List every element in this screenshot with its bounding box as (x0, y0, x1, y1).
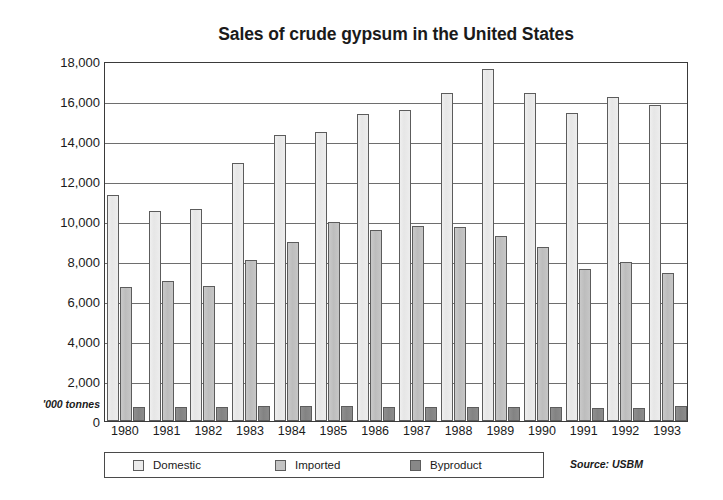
bars-layer (105, 63, 687, 421)
chart-figure: Sales of crude gypsum in the United Stat… (0, 0, 723, 500)
x-axis-tick-label: 1988 (438, 424, 480, 438)
bar-imported-1986 (370, 230, 382, 421)
bar-imported-1980 (120, 287, 132, 421)
y-axis-tick-label: 0 (30, 415, 100, 430)
legend-swatch-icon (410, 460, 421, 471)
y-axis-tick-label: 14,000 (30, 135, 100, 150)
bar-domestic-1990 (524, 93, 536, 421)
bar-group (441, 63, 479, 421)
x-axis: 1980198119821983198419851986198719881989… (104, 424, 688, 442)
bar-imported-1984 (287, 242, 299, 421)
legend-item-domestic[interactable]: Domestic (133, 453, 201, 477)
bar-byproduct-1988 (467, 407, 479, 421)
x-axis-tick-label: 1992 (604, 424, 646, 438)
x-axis-tick-label: 1993 (646, 424, 688, 438)
bar-imported-1992 (620, 262, 632, 421)
x-axis-tick-label: 1991 (563, 424, 605, 438)
y-axis-tick-label: 12,000 (30, 175, 100, 190)
bar-byproduct-1987 (425, 407, 437, 421)
x-axis-tick-label: 1982 (187, 424, 229, 438)
bar-domestic-1993 (649, 105, 661, 421)
bar-byproduct-1985 (341, 406, 353, 421)
bar-domestic-1989 (482, 69, 494, 421)
bar-imported-1983 (245, 260, 257, 421)
y-axis-tick-label: 18,000 (30, 55, 100, 70)
legend-label: Byproduct (430, 459, 482, 471)
bar-domestic-1988 (441, 93, 453, 421)
bar-group (524, 63, 562, 421)
x-axis-tick-label: 1981 (146, 424, 188, 438)
y-axis-tick-label: 10,000 (30, 215, 100, 230)
bar-group (357, 63, 395, 421)
bar-imported-1988 (454, 227, 466, 421)
bar-imported-1985 (328, 222, 340, 421)
bar-group (649, 63, 687, 421)
plot-area (104, 62, 688, 422)
bar-group (315, 63, 353, 421)
bar-domestic-1984 (274, 135, 286, 421)
bar-group (566, 63, 604, 421)
bar-group (482, 63, 520, 421)
bar-imported-1987 (412, 226, 424, 421)
bar-group (107, 63, 145, 421)
x-axis-tick-label: 1987 (396, 424, 438, 438)
bar-byproduct-1984 (300, 406, 312, 421)
bar-imported-1981 (162, 281, 174, 421)
y-axis-unit-label: '000 tonnes (26, 398, 100, 410)
bar-imported-1991 (579, 269, 591, 421)
bar-group (607, 63, 645, 421)
legend-swatch-icon (275, 460, 286, 471)
legend-item-imported[interactable]: Imported (275, 453, 340, 477)
source-note: Source: USBM (570, 458, 643, 470)
x-axis-tick-label: 1985 (312, 424, 354, 438)
bar-group (399, 63, 437, 421)
chart-title: Sales of crude gypsum in the United Stat… (104, 24, 688, 45)
legend-label: Imported (295, 459, 340, 471)
bar-byproduct-1980 (133, 407, 145, 421)
x-axis-tick-label: 1980 (104, 424, 146, 438)
x-axis-tick-label: 1990 (521, 424, 563, 438)
bar-group (190, 63, 228, 421)
bar-byproduct-1989 (508, 407, 520, 421)
bar-byproduct-1991 (592, 408, 604, 421)
bar-domestic-1987 (399, 110, 411, 421)
bar-domestic-1980 (107, 195, 119, 421)
x-axis-tick-label: 1989 (479, 424, 521, 438)
bar-byproduct-1993 (675, 406, 687, 421)
x-axis-tick-label: 1983 (229, 424, 271, 438)
y-axis-tick-label: 2,000 (30, 375, 100, 390)
bar-imported-1982 (203, 286, 215, 421)
bar-domestic-1982 (190, 209, 202, 421)
bar-domestic-1985 (315, 132, 327, 421)
bar-group (274, 63, 312, 421)
bar-group (149, 63, 187, 421)
bar-domestic-1981 (149, 211, 161, 421)
y-axis-tick-label: 6,000 (30, 295, 100, 310)
y-axis-tick-label: 4,000 (30, 335, 100, 350)
x-axis-tick-label: 1984 (271, 424, 313, 438)
bar-domestic-1991 (566, 113, 578, 421)
bar-domestic-1986 (357, 114, 369, 421)
bar-imported-1990 (537, 247, 549, 421)
bar-imported-1989 (495, 236, 507, 421)
y-axis-tick-label: 16,000 (30, 95, 100, 110)
legend-item-byproduct[interactable]: Byproduct (410, 453, 482, 477)
bar-byproduct-1982 (216, 407, 228, 421)
legend-swatch-icon (133, 460, 144, 471)
bar-domestic-1983 (232, 163, 244, 421)
bar-byproduct-1990 (550, 407, 562, 421)
x-axis-tick-label: 1986 (354, 424, 396, 438)
bar-byproduct-1983 (258, 406, 270, 421)
bar-domestic-1992 (607, 97, 619, 421)
y-axis-tick-label: 8,000 (30, 255, 100, 270)
legend-label: Domestic (153, 459, 201, 471)
bar-byproduct-1992 (633, 408, 645, 421)
y-axis: 02,0004,0006,0008,00010,00012,00014,0001… (26, 0, 100, 500)
bar-group (232, 63, 270, 421)
chart-legend: DomesticImportedByproduct (104, 452, 544, 478)
bar-imported-1993 (662, 273, 674, 421)
bar-byproduct-1986 (383, 407, 395, 421)
bar-byproduct-1981 (175, 407, 187, 421)
